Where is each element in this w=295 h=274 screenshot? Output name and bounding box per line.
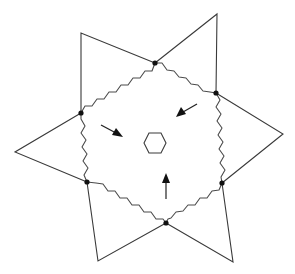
- arrow-left-shaft: [101, 125, 116, 133]
- flap-bottom-left: [87, 182, 166, 261]
- arrow-left-head-icon: [112, 128, 123, 137]
- arrow-bottom: [162, 173, 170, 199]
- node-top: [152, 60, 157, 65]
- node-upper-right: [213, 90, 218, 95]
- flap-right: [216, 93, 283, 183]
- arrow-right-head-icon: [176, 107, 186, 117]
- node-lower-right: [219, 180, 224, 185]
- wavy-edge-left: [81, 113, 88, 182]
- ring-nodes: [78, 60, 224, 225]
- arrow-right: [176, 104, 197, 117]
- center-hexagon: [144, 133, 166, 153]
- wavy-edge-right: [216, 93, 225, 183]
- arrow-left: [101, 125, 123, 137]
- flap-left: [15, 113, 87, 182]
- wavy-edge-bottom-lower-left: [87, 182, 166, 223]
- wavy-edge-upper-left-top: [81, 63, 155, 113]
- wavy-edge-top-upper-right: [155, 63, 216, 93]
- wavy-edge-lower-right-bottom: [166, 183, 222, 223]
- flap-top-right: [155, 14, 217, 93]
- node-lower-left: [84, 179, 89, 184]
- flap-bottom-right: [166, 183, 233, 262]
- node-upper-left: [78, 110, 83, 115]
- arrow-bottom-head-icon: [162, 173, 170, 183]
- star-hexagon-diagram: [0, 0, 295, 274]
- node-bottom: [163, 220, 168, 225]
- arrow-right-shaft: [183, 104, 197, 112]
- outer-flaps: [15, 14, 283, 262]
- wavy-ring: [81, 63, 225, 223]
